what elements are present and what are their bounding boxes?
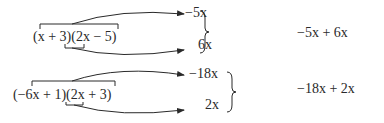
outer-arrow-2: [72, 71, 184, 81]
inner-term-2: 2x: [205, 98, 219, 112]
product-expression-2: (−6x + 1)(2x + 3): [13, 88, 111, 102]
brace-2: [227, 72, 236, 112]
outer-arrow-1: [72, 12, 184, 24]
inner-arrow-1: [72, 48, 184, 55]
outer-term-1: −5x: [185, 6, 207, 20]
outer-bracket-2: [32, 81, 115, 86]
inner-term-1: 6x: [198, 38, 212, 52]
product-expression-1: (x + 3)(2x − 5): [33, 30, 116, 44]
sum-expression-2: −18x + 2x: [297, 82, 355, 96]
inner-arrow-2: [74, 105, 184, 113]
inner-bracket-2: [66, 102, 83, 105]
sum-expression-1: −5x + 6x: [297, 26, 348, 40]
inner-bracket-1: [65, 44, 84, 48]
outer-term-2: −18x: [189, 67, 218, 81]
